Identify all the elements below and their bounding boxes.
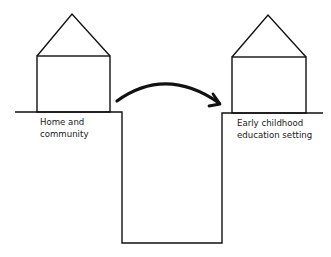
home-label-line1: Home and — [40, 117, 88, 129]
ece-label-line1: Early childhood — [237, 118, 312, 130]
home-label-line2: community — [40, 129, 88, 141]
home-community-label: Home and community — [40, 117, 88, 140]
left-house-icon — [37, 14, 110, 112]
ece-setting-label: Early childhood education setting — [237, 118, 312, 141]
right-house-icon — [232, 15, 306, 113]
ece-label-line2: education setting — [237, 130, 312, 142]
arrow-right-curved-icon — [117, 84, 220, 106]
